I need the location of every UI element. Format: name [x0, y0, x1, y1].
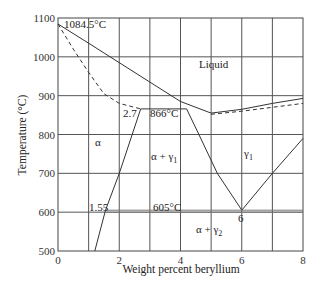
- melting-point-label: 1084.5°C: [64, 18, 106, 30]
- peritectic-temp-label: 866°C: [150, 107, 178, 119]
- x-axis-title: Weight percent beryllium: [122, 263, 239, 276]
- y-tick-label: 1000: [33, 51, 56, 63]
- composition-1.55-label: 1.55: [89, 201, 109, 213]
- x-tick-label: 6: [239, 254, 245, 266]
- x-tick-label: 2: [117, 254, 123, 266]
- composition-2.7-label: 2.7: [123, 107, 137, 119]
- y-tick-label: 500: [39, 245, 56, 257]
- gamma1-region-label: γ1: [243, 147, 253, 162]
- liquid-region-label: Liquid: [199, 58, 229, 70]
- eutectoid-composition-label: 6: [238, 212, 244, 224]
- eutectoid-temp-label: 605°C: [153, 201, 181, 213]
- y-tick-label: 600: [39, 206, 56, 218]
- y-tick-label: 800: [39, 129, 56, 141]
- gamma1-left-boundary-curve: [187, 109, 242, 210]
- y-tick-label: 700: [39, 167, 56, 179]
- alpha-gamma2-region-label: α + γ2: [196, 223, 222, 238]
- alpha-gamma1-region-label: α + γ1: [151, 150, 177, 165]
- phase-diagram: 0246850060070080090010001100 1084.5°C Li…: [0, 0, 323, 292]
- y-axis-title: Temperature (°C): [16, 94, 29, 175]
- y-tick-label: 900: [39, 90, 56, 102]
- x-tick-label: 8: [300, 254, 306, 266]
- grid-lines: [58, 18, 303, 251]
- solidus-right-curve: [211, 103, 303, 114]
- y-tick-label: 1100: [33, 12, 55, 24]
- alpha-region-label: α: [95, 136, 101, 148]
- x-tick-label: 0: [55, 254, 61, 266]
- alpha-solvus-curve: [95, 109, 141, 251]
